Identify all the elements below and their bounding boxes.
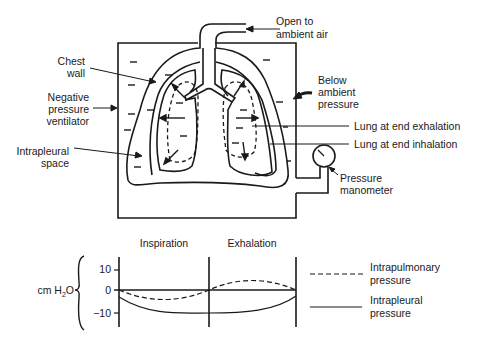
y-axis-label: cm H2O <box>37 284 74 298</box>
chest-wall <box>127 24 289 187</box>
label-pressure-manometer: Pressure <box>340 172 382 184</box>
label-chest-wall: Chest <box>58 55 86 67</box>
lungs <box>157 48 272 175</box>
svg-text:manometer: manometer <box>340 184 394 196</box>
label-below-ambient-pressure: Below <box>318 74 347 86</box>
label-open-to-ambient: Open to <box>276 15 314 27</box>
svg-text:pressure: pressure <box>48 103 89 115</box>
label-intrapleural-space: Intrapleural <box>16 145 69 157</box>
ventilator-box <box>118 43 296 218</box>
ytick-neg10: −10 <box>93 307 111 319</box>
pressure-manometer-gauge <box>296 145 335 193</box>
svg-text:wall: wall <box>66 67 85 79</box>
svg-text:ambient: ambient <box>318 86 355 98</box>
pressure-chart: Inspiration Exhalation cm H2O 10 0 −10 I… <box>37 237 440 330</box>
diagram-labels: Open to ambient air Chest wall Negative … <box>16 15 460 196</box>
lung-expansion-arrows <box>160 81 258 164</box>
svg-text:ambient air: ambient air <box>276 28 328 40</box>
svg-text:pressure: pressure <box>370 307 411 319</box>
legend-intrapleural: Intrapleural <box>370 294 423 306</box>
label-lung-end-exhalation: Lung at end exhalation <box>354 120 460 132</box>
ytick-10: 10 <box>99 263 111 275</box>
label-lung-end-inhalation: Lung at end inhalation <box>354 138 457 150</box>
svg-text:ventilator: ventilator <box>46 115 89 127</box>
svg-text:pressure: pressure <box>370 274 411 286</box>
y-axis-brace <box>75 256 84 330</box>
label-negative-pressure-ventilator: Negative <box>48 91 90 103</box>
legend-intrapulmonary: Intrapulmonary <box>370 261 441 273</box>
svg-text:pressure: pressure <box>318 98 359 110</box>
series-intrapleural-pressure <box>119 296 296 313</box>
svg-text:space: space <box>41 157 69 169</box>
ytick-0: 0 <box>105 284 111 296</box>
negative-pressure-ventilator-diagram: Open to ambient air Chest wall Negative … <box>0 0 478 346</box>
phase-label-exhalation: Exhalation <box>227 237 276 249</box>
callout-pointers <box>74 26 349 175</box>
chart-legend: Intrapulmonary pressure Intrapleural pre… <box>310 261 441 319</box>
phase-label-inspiration: Inspiration <box>140 237 189 249</box>
